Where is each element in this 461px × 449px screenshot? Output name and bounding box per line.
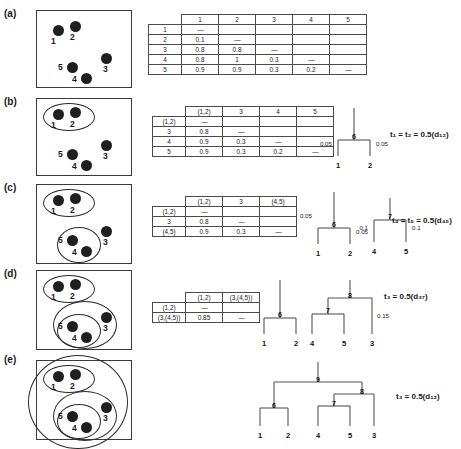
- matrix-cell: —: [186, 207, 223, 217]
- point-label-4: 4: [72, 162, 77, 171]
- matrix-cell: —: [186, 117, 223, 127]
- formula-e: t₃ = 0.5(d₁₂): [396, 392, 440, 401]
- panel-b: (b) 1 2 3 4 5 (1,2) 3 4 5 (1,2) — 3 0.: [0, 92, 461, 178]
- point-dot-5: [67, 149, 78, 160]
- point-dot-1: [53, 25, 64, 36]
- tree-c-right: 7 4 5 0.1 0.1: [350, 194, 430, 262]
- point-label-4: 4: [72, 248, 77, 257]
- panel-b-label: (b): [4, 96, 17, 107]
- point-label-2: 2: [70, 206, 75, 215]
- matrix-row-head: 5: [153, 147, 186, 157]
- matrix-col-head: (1,2): [186, 293, 223, 303]
- matrix-cell: —: [256, 45, 293, 55]
- tree-leaf-label: 2: [368, 161, 372, 170]
- panel-a-label: (a): [4, 8, 16, 19]
- matrix-cell: —: [330, 65, 367, 75]
- matrix-row-head: (1,2): [153, 117, 186, 127]
- panel-c: (c) 1 2 3 4 5 (1,2) 3 (4,5) (1,2) — 3 0.…: [0, 178, 461, 266]
- matrix-cell: 0.85: [186, 313, 223, 323]
- matrix-cell: [260, 127, 297, 137]
- matrix-row: 2 0.1 —: [149, 35, 367, 45]
- tree-leaf-label: 1: [262, 339, 266, 348]
- point-dot-4: [81, 332, 92, 343]
- matrix-cell: —: [219, 35, 256, 45]
- tree-leaf-label: 3: [372, 431, 376, 440]
- tree-node-label: 6: [332, 221, 336, 228]
- matrix-row: 5 0.9 0.9 0.3 0.2 —: [149, 65, 367, 75]
- matrix-row-head: 4: [153, 137, 186, 147]
- matrix-row-head: (1,2): [153, 207, 186, 217]
- tree-node-label: 6: [352, 133, 356, 140]
- point-dot-5: [67, 411, 78, 422]
- point-label-2: 2: [70, 120, 75, 129]
- cluster-ellipse-45: [57, 314, 101, 348]
- matrix-row-head: 1: [149, 25, 182, 35]
- formula-c: t₄ = t₅ = 0.5(d₄₅): [392, 216, 452, 225]
- point-label-1: 1: [51, 121, 56, 130]
- point-label-3: 3: [103, 238, 108, 247]
- tree-node-label: 8: [348, 292, 352, 299]
- point-dot-1: [53, 195, 64, 206]
- point-label-1: 1: [51, 383, 56, 392]
- point-dot-2: [70, 21, 81, 32]
- matrix-row: 3 0.8 —: [153, 217, 297, 227]
- tree-leaf-label: 5: [342, 339, 346, 348]
- tree-edge-label: 0.05: [376, 140, 389, 147]
- matrix-col-head: 5: [330, 15, 367, 25]
- point-label-4: 4: [72, 75, 77, 84]
- matrix-cell: [293, 25, 330, 35]
- panel-d-scatter-box: 1 2 3 4 5: [36, 270, 132, 350]
- matrix-corner: [149, 15, 182, 25]
- point-dot-4: [81, 73, 92, 84]
- tree-leaf-label: 4: [310, 339, 315, 348]
- tree-leaf-label: 5: [404, 247, 408, 256]
- matrix-row: (1,2) —: [153, 303, 260, 313]
- point-dot-3: [101, 53, 112, 64]
- point-dot-3: [101, 402, 112, 413]
- matrix-col-head: 3: [223, 107, 260, 117]
- matrix-cell: 0.2: [293, 65, 330, 75]
- matrix-cell: 0.9: [182, 65, 219, 75]
- matrix-corner: [153, 293, 186, 303]
- tree-edge-label: 0.05: [300, 212, 313, 219]
- matrix-cell: —: [186, 303, 223, 313]
- matrix-cell: 0.1: [182, 35, 219, 45]
- matrix-cell: 0.3: [223, 137, 260, 147]
- matrix-cell: [223, 117, 260, 127]
- point-dot-2: [70, 369, 81, 380]
- tree-leaf-label: 2: [286, 431, 290, 440]
- panel-a: (a) 1 2 3 4 5 1 2 3 4 5 1 — 2: [0, 0, 461, 92]
- matrix-cell: 0.8: [182, 45, 219, 55]
- matrix-cell: 0.3: [223, 227, 260, 237]
- point-label-1: 1: [51, 207, 56, 216]
- cluster-ellipse-45: [57, 404, 101, 439]
- matrix-corner: [153, 107, 186, 117]
- matrix-row-head: 3: [153, 217, 186, 227]
- point-dot-5: [67, 62, 78, 73]
- point-label-5: 5: [58, 63, 63, 72]
- matrix-cell: [330, 55, 367, 65]
- matrix-row-head: (4,5): [153, 227, 186, 237]
- matrix-cell: —: [223, 217, 260, 227]
- matrix-cell: —: [182, 25, 219, 35]
- panel-d-label: (d): [4, 268, 17, 279]
- matrix-cell: 0.3: [223, 147, 260, 157]
- matrix-cell: [330, 45, 367, 55]
- panel-a-scatter-box: 1 2 3 4 5: [36, 10, 132, 88]
- matrix-cell: [330, 25, 367, 35]
- matrix-row: (4,5) 0.9 0.3 —: [153, 227, 297, 237]
- point-label-3: 3: [103, 414, 108, 423]
- point-label-5: 5: [58, 150, 63, 159]
- point-dot-1: [53, 281, 64, 292]
- matrix-col-head: 4: [260, 107, 297, 117]
- matrix-cell: —: [223, 127, 260, 137]
- point-dot-5: [67, 321, 78, 332]
- matrix-row-head: (1,2): [153, 303, 186, 313]
- matrix-cell: [260, 117, 297, 127]
- tree-leaf-label: 4: [372, 247, 377, 256]
- matrix-row: 4 0.8 1 0.3 —: [149, 55, 367, 65]
- panel-c-label: (c): [4, 182, 16, 193]
- matrix-row: 3 0.8 0.8 —: [149, 45, 367, 55]
- matrix-cell: [256, 35, 293, 45]
- matrix-col-head: 1: [182, 15, 219, 25]
